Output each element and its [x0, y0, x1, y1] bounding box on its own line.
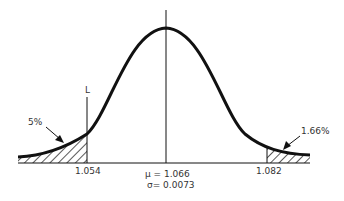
bell-curve	[18, 28, 310, 157]
right-tick-label: 1.082	[256, 167, 282, 176]
left-tick-label: 1.054	[75, 167, 101, 176]
left-tail-shade	[18, 134, 87, 163]
limit-label: L	[85, 86, 90, 95]
right-arrowhead-icon	[283, 141, 291, 150]
mean-label: μ = 1.066	[145, 170, 190, 179]
left-pct-label: 5%	[28, 118, 42, 127]
sigma-label: σ= 0.0073	[147, 181, 195, 190]
right-pct-label: 1.66%	[301, 127, 330, 136]
